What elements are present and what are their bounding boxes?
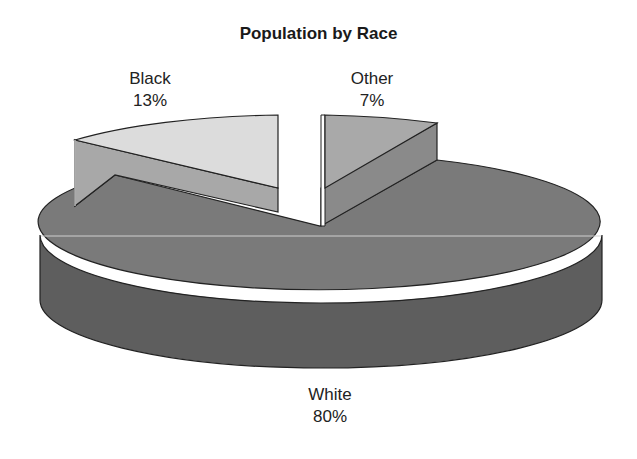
label-other-name: Other xyxy=(332,68,412,90)
label-black-name: Black xyxy=(110,68,190,90)
label-other-value: 7% xyxy=(332,90,412,112)
label-white-name: White xyxy=(290,384,370,406)
label-white-value: 80% xyxy=(290,406,370,428)
slice-white-top xyxy=(38,160,600,290)
label-black-value: 13% xyxy=(110,90,190,112)
